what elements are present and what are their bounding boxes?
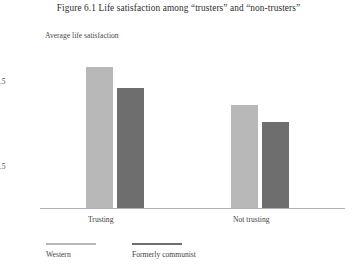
bar-trusting-western — [86, 67, 113, 208]
legend-swatch-icon — [132, 243, 182, 245]
figure-title: Figure 6.1 Life satisfaction among “trus… — [0, 3, 357, 13]
legend-swatch-icon — [46, 243, 96, 245]
legend-entry: Formerly communist — [132, 243, 196, 259]
y-axis-tick-label: 7.5 — [0, 76, 14, 85]
legend-label: Western — [46, 250, 96, 259]
plot-area: 87.576.56 — [40, 38, 345, 209]
legend-entry: Western — [46, 243, 96, 259]
y-axis-tick-label: 7 — [0, 119, 14, 128]
figure-container: Figure 6.1 Life satisfaction among “trus… — [0, 0, 357, 271]
y-axis-tick-label: 6 — [0, 205, 14, 214]
legend-label: Formerly communist — [132, 250, 196, 259]
bar-not-trusting-western — [231, 105, 258, 208]
bar-trusting-formerly-communist — [117, 88, 144, 208]
chart-legend: WesternFormerly communist — [46, 243, 346, 269]
x-axis-baseline — [40, 208, 345, 209]
y-axis-tick-label: 6.5 — [0, 162, 14, 171]
x-axis-category-label: Not trusting — [233, 215, 270, 224]
x-axis-category-label: Trusting — [88, 215, 113, 224]
y-axis-tick-label: 8 — [0, 34, 14, 43]
bar-not-trusting-formerly-communist — [262, 122, 289, 208]
